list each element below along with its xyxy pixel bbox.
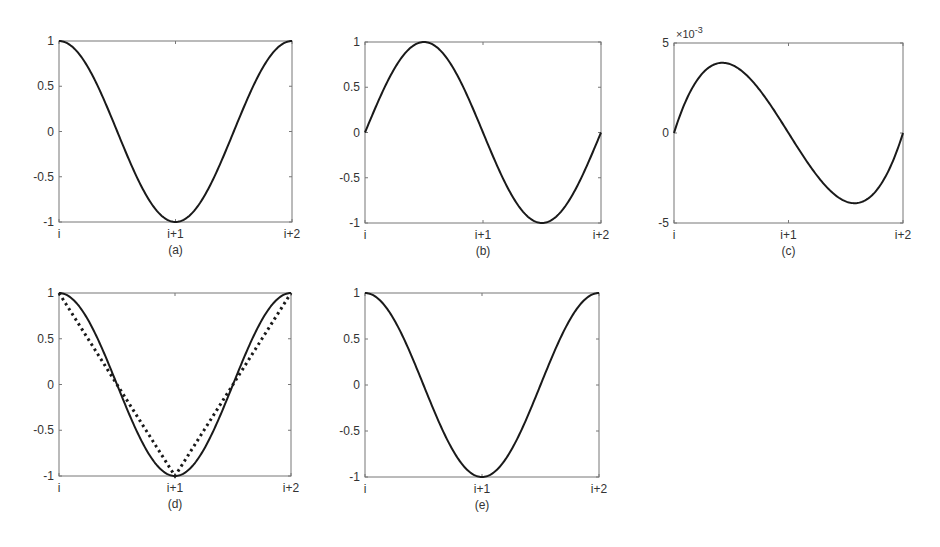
axes-box [59, 293, 291, 476]
x-tick-label: i+1 [780, 228, 797, 242]
x-tick-label: i [673, 228, 676, 242]
subplot-b: -1-0.500.51ii+1i+2(b) [339, 35, 609, 258]
y-tick-label: 0 [353, 378, 360, 392]
y-tick-label: 1 [353, 286, 360, 300]
subplot-a: -1-0.500.51ii+1i+2(a) [33, 34, 300, 257]
y-tick-label: -0.5 [33, 423, 54, 437]
subplot-caption: (b) [476, 244, 491, 258]
x-tick-label: i+1 [475, 228, 492, 242]
subplot-caption: (c) [782, 244, 796, 258]
y-tick-label: 0.5 [343, 80, 360, 94]
axes-box [59, 41, 292, 222]
subplot-caption: (e) [475, 498, 490, 512]
y-tick-label: -0.5 [339, 171, 360, 185]
series-line [674, 63, 903, 203]
y-tick-label: -0.5 [33, 170, 54, 184]
x-tick-label: i [58, 481, 61, 495]
y-tick-label: -0.5 [339, 424, 360, 438]
y-tick-label: -1 [349, 216, 360, 230]
subplot-c: -505ii+1i+2×10-3(c) [658, 25, 911, 258]
y-tick-label: 0 [47, 378, 54, 392]
y-tick-label: 0 [353, 126, 360, 140]
x-tick-label: i+2 [283, 481, 300, 495]
x-tick-label: i+2 [895, 228, 912, 242]
y-exponent-label: ×10-3 [676, 25, 703, 40]
y-tick-label: 0.5 [37, 332, 54, 346]
x-tick-label: i+2 [593, 228, 610, 242]
dotted-series-line [59, 293, 291, 476]
y-tick-label: 1 [353, 35, 360, 49]
x-tick-label: i [364, 482, 367, 496]
y-tick-label: 0.5 [343, 332, 360, 346]
y-tick-label: -1 [349, 470, 360, 484]
series-line [59, 293, 291, 476]
figure: -1-0.500.51ii+1i+2(a)-1-0.500.51ii+1i+2(… [0, 0, 940, 547]
series-line [365, 42, 601, 223]
axes-box [365, 293, 599, 477]
y-tick-label: 0.5 [37, 79, 54, 93]
y-tick-label: 1 [47, 286, 54, 300]
y-tick-label: -1 [43, 469, 54, 483]
subplot-caption: (a) [168, 243, 183, 257]
subplot-caption: (d) [168, 497, 183, 511]
x-tick-label: i [58, 227, 61, 241]
series-line [59, 41, 292, 222]
subplot-e: -1-0.500.51ii+1i+2(e) [339, 286, 607, 512]
subplot-d: -1-0.500.51ii+1i+2(d) [33, 286, 299, 511]
x-tick-label: i+1 [167, 481, 184, 495]
y-tick-label: -5 [658, 216, 669, 230]
y-tick-label: -1 [43, 215, 54, 229]
x-tick-label: i [364, 228, 367, 242]
subplots-group: -1-0.500.51ii+1i+2(a)-1-0.500.51ii+1i+2(… [33, 25, 911, 512]
y-tick-label: 1 [47, 34, 54, 48]
y-tick-label: 5 [662, 36, 669, 50]
x-tick-label: i+2 [591, 482, 608, 496]
y-tick-label: 0 [47, 125, 54, 139]
x-tick-label: i+2 [284, 227, 301, 241]
x-tick-label: i+1 [167, 227, 184, 241]
x-tick-label: i+1 [474, 482, 491, 496]
series-line [365, 293, 599, 477]
y-tick-label: 0 [662, 126, 669, 140]
